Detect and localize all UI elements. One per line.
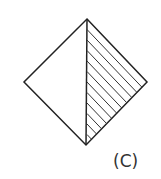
vertical-divider [86,19,87,145]
hatch-lines [87,30,142,140]
figure-label: (C) [113,151,138,171]
